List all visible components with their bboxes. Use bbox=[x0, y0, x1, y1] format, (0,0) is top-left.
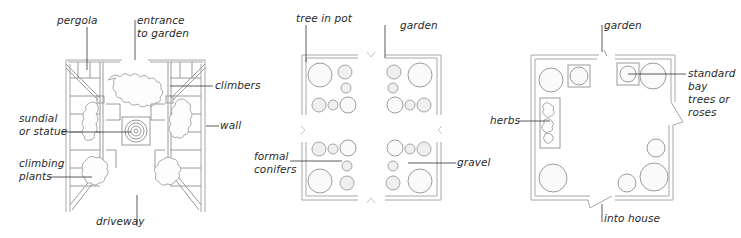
label-into-house: into house bbox=[604, 212, 660, 225]
panel-house-courtyard-plan bbox=[0, 0, 741, 238]
label-garden-right: garden bbox=[604, 19, 642, 32]
planting-containers bbox=[539, 63, 668, 192]
garden-plans-figure: pergola entrance to garden climbers sund… bbox=[0, 0, 741, 238]
label-herbs: herbs bbox=[490, 114, 520, 127]
label-standard-bay-trees-or-roses: standard bay trees or roses bbox=[688, 67, 736, 119]
